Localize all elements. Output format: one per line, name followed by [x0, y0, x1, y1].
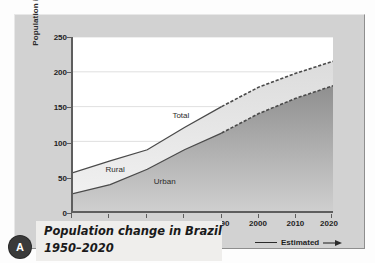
x-mark-2010 — [295, 214, 296, 218]
figure-badge: A — [9, 236, 31, 258]
series-label-rural: Rural — [106, 165, 125, 174]
series-label-total: Total — [172, 111, 189, 120]
y-tick-150: 150 — [54, 103, 67, 112]
legend: Estimated — [255, 233, 343, 251]
y-axis-ticks: 0 50 100 150 200 250 — [41, 37, 67, 213]
x-mark-1970 — [146, 214, 147, 218]
plot-area: Total Rural Urban — [71, 37, 333, 213]
series-label-urban: Urban — [154, 177, 176, 186]
figure-root: Population in millions 0 50 100 150 200 … — [0, 0, 375, 263]
legend-line-icon — [255, 242, 277, 243]
legend-label-estimated: Estimated — [281, 238, 319, 247]
caption: Population change in Brazil 1950–2020 — [36, 221, 222, 261]
caption-line-1: Population change in Brazil — [44, 223, 216, 240]
urban-area-fill — [73, 86, 333, 211]
x-mark-2000 — [258, 214, 259, 218]
x-tick-2020: 2020 — [320, 219, 338, 228]
chart-svg — [73, 37, 333, 211]
caption-line-2: 1950–2020 — [44, 240, 216, 257]
y-tick-200: 200 — [54, 68, 67, 77]
x-mark-1950 — [71, 214, 72, 218]
y-tick-250: 250 — [54, 33, 67, 42]
x-mark-1980 — [183, 214, 184, 218]
x-mark-1960 — [108, 214, 109, 218]
figure-card: Population in millions 0 50 100 150 200 … — [14, 14, 365, 249]
y-axis-title: Population in millions — [31, 0, 40, 63]
arrow-right-icon — [323, 233, 343, 251]
x-mark-1990 — [221, 214, 222, 218]
x-tick-2000: 2000 — [249, 219, 267, 228]
x-tick-2010: 2010 — [286, 219, 304, 228]
plot-inner: Total Rural Urban — [73, 37, 333, 211]
y-tick-50: 50 — [58, 173, 67, 182]
y-tick-100: 100 — [54, 138, 67, 147]
x-mark-2020 — [331, 214, 332, 218]
